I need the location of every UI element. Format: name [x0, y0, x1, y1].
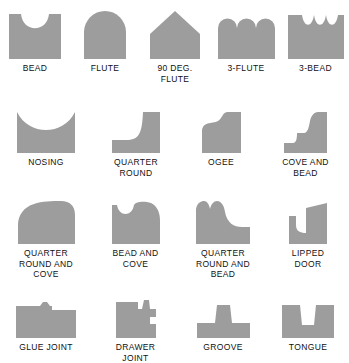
profile-cell-cove-and-bead: COVE AND BEAD: [262, 109, 349, 194]
glue-joint-figure: [16, 298, 76, 338]
profile-cell-three-bead: 3-BEAD: [282, 11, 349, 101]
flute-90-deg-figure: [150, 11, 200, 59]
profile-cell-drawer-joint: DRAWER JOINT: [92, 298, 179, 363]
ogee-label: OGEE: [208, 157, 234, 168]
quarter-round-and-bead-label: QUARTER ROUND AND BEAD: [196, 248, 250, 280]
quarter-round-and-bead-figure: [196, 199, 250, 244]
lipped-door-label: LIPPED DOOR: [292, 248, 324, 269]
groove-figure: [197, 298, 250, 338]
bead-label: BEAD: [23, 63, 48, 74]
profile-row-2: NOSING QUARTER ROUND OGEE: [0, 101, 349, 194]
nosing-label: NOSING: [28, 157, 64, 168]
bead-and-cove-figure: [112, 199, 160, 244]
ogee-figure: [202, 109, 241, 153]
quarter-round-figure: [112, 109, 160, 153]
profile-cell-groove: GROOVE: [179, 298, 267, 363]
profile-cell-quarter-round-and-cove: QUARTER ROUND AND COVE: [0, 199, 92, 294]
quarter-round-and-cove-figure: [18, 199, 75, 244]
profile-cell-lipped-door: LIPPED DOOR: [267, 199, 349, 294]
nosing-figure: [17, 109, 75, 153]
profile-cell-flute: FLUTE: [70, 11, 140, 101]
flute-90-deg-label: 90 DEG. FLUTE: [157, 63, 192, 84]
profile-cell-three-flute: 3-FLUTE: [210, 11, 282, 101]
profile-cell-quarter-round: QUARTER ROUND: [92, 109, 180, 194]
three-flute-figure: [218, 11, 275, 59]
profile-cell-flute-90-deg: 90 DEG. FLUTE: [140, 11, 210, 101]
groove-label: GROOVE: [203, 342, 242, 353]
tongue-figure: [282, 298, 334, 338]
router-bit-profile-chart: BEAD FLUTE 90 DEG. FLUTE: [0, 0, 349, 363]
lipped-door-figure: [289, 199, 327, 244]
profile-cell-glue-joint: GLUE JOINT: [0, 298, 92, 363]
profile-row-1: BEAD FLUTE 90 DEG. FLUTE: [0, 0, 349, 101]
quarter-round-and-cove-label: QUARTER ROUND AND COVE: [19, 248, 73, 280]
profile-cell-bead: BEAD: [0, 11, 70, 101]
drawer-joint-label: DRAWER JOINT: [116, 342, 156, 363]
three-bead-figure: [288, 11, 344, 59]
profile-cell-bead-and-cove: BEAD AND COVE: [92, 199, 179, 294]
profile-row-4: GLUE JOINT DRAWER JOINT GROOVE: [0, 294, 349, 363]
profile-row-3: QUARTER ROUND AND COVE BEAD AND COVE QUA…: [0, 194, 349, 294]
profile-cell-nosing: NOSING: [0, 109, 92, 194]
glue-joint-label: GLUE JOINT: [19, 342, 73, 353]
flute-figure: [84, 11, 126, 59]
tongue-label: TONGUE: [289, 342, 327, 353]
profile-cell-quarter-round-and-bead: QUARTER ROUND AND BEAD: [179, 199, 267, 294]
cove-and-bead-label: COVE AND BEAD: [282, 157, 329, 178]
cove-and-bead-figure: [284, 109, 327, 153]
bead-and-cove-label: BEAD AND COVE: [113, 248, 159, 269]
profile-cell-tongue: TONGUE: [267, 298, 349, 363]
flute-label: FLUTE: [91, 63, 120, 74]
profile-cell-ogee: OGEE: [180, 109, 262, 194]
three-flute-label: 3-FLUTE: [228, 63, 265, 74]
quarter-round-label: QUARTER ROUND: [114, 157, 158, 178]
drawer-joint-figure: [116, 298, 156, 338]
three-bead-label: 3-BEAD: [299, 63, 332, 74]
bead-figure: [9, 11, 61, 59]
